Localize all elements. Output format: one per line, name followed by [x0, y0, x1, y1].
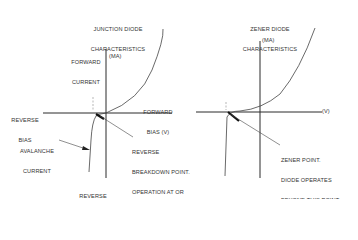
zener-note: ZENER POINT. DIODE OPERATES BEYOND THIS … [281, 144, 339, 199]
breakdown-note: REVERSE BREAKDOWN POINT. OPERATION AT OR… [132, 136, 190, 199]
junction-forward-current-label: FORWARD CURRENT [69, 46, 103, 92]
junction-reverse-curve [89, 113, 106, 172]
junction-breakdown-bold [96, 114, 104, 119]
zener-ma-label: (MA) [262, 37, 275, 44]
junction-breakdown-leader [100, 116, 133, 137]
zener-leader [230, 114, 280, 145]
junction-ma-label: (MA) [109, 53, 122, 60]
zener-v-label: (V) [322, 108, 330, 115]
avalanche-current-label: AVALANCHE CURRENT [15, 135, 59, 181]
avalanche-leader [59, 140, 86, 149]
avalanche-arrowhead [82, 146, 90, 150]
reverse-current-label: REVERSE CURRENT [76, 180, 110, 199]
